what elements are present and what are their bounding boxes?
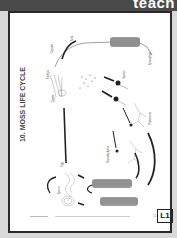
- brand-text: teach: [133, 0, 175, 10]
- header-bar: teach: [0, 0, 177, 11]
- arrow-egg: [78, 175, 84, 178]
- egg-sperm-illustration: [62, 173, 75, 206]
- level-badge: L1: [157, 209, 173, 223]
- label-zygote: Zygote: [52, 95, 55, 103]
- sporophyte-top-illustration: [55, 37, 152, 67]
- label-sperm: Sperm: [58, 187, 61, 195]
- moss-life-cycle-illustration: [10, 13, 170, 231]
- spore-germination: [102, 77, 128, 105]
- gametophyte-illustration: [92, 179, 138, 206]
- arrow-to-gametophyte: [148, 133, 155, 185]
- arrow-embryo-to-sporophyte: [62, 41, 76, 59]
- label-seta: Seta: [71, 36, 74, 41]
- spores-scatter: [80, 74, 96, 88]
- footer-credit-line: [30, 216, 48, 217]
- label-capsule: Capsule: [51, 44, 54, 54]
- label-sporophyte: Sporophyte: [149, 52, 152, 65]
- arrow-sperm: [78, 203, 84, 205]
- page-number: 10: [153, 214, 156, 218]
- label-gametophytes: Gametophytes: [107, 146, 110, 163]
- arrow-protonema: [123, 108, 130, 123]
- label-spores: Spores: [123, 70, 126, 78]
- arrow-protonema-2: [113, 131, 116, 148]
- page-title: 10. MOSS LIFE CYCLE: [19, 65, 26, 145]
- arrow-to-zygote: [64, 108, 66, 163]
- label-embryo: Embryo: [47, 70, 50, 79]
- label-egg: Egg: [61, 162, 64, 167]
- worksheet-card[interactable]: 10. MOSS LIFE CYCLE Seta Capsule Sporoph…: [8, 11, 172, 233]
- footer-copyright-line: [55, 216, 130, 217]
- label-protonema: Protonema: [149, 112, 152, 125]
- protonema-illustration: [128, 103, 146, 163]
